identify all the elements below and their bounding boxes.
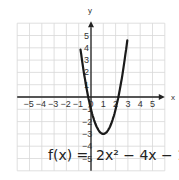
svg-text:−3: −3	[82, 129, 92, 139]
svg-text:4: 4	[84, 43, 89, 53]
svg-text:3: 3	[125, 99, 130, 109]
equation-lhs: f(x) =	[48, 147, 88, 163]
y-axis-label: y	[88, 6, 92, 15]
x-axis-label: x	[171, 93, 175, 102]
svg-text:3: 3	[84, 55, 89, 65]
svg-text:−5: −5	[24, 99, 34, 109]
svg-text:4: 4	[138, 99, 143, 109]
svg-text:5: 5	[84, 31, 89, 41]
parabola-graph: −5−4−3−2−101234554321−1−2−3−4−5 x y f(x)…	[0, 0, 179, 180]
svg-text:−3: −3	[48, 99, 58, 109]
svg-text:−2: −2	[82, 117, 92, 127]
equation-rhs: 2x² − 4x − 1	[96, 147, 179, 163]
svg-text:5: 5	[150, 99, 155, 109]
svg-text:−2: −2	[60, 99, 70, 109]
svg-text:−4: −4	[36, 99, 46, 109]
svg-text:1: 1	[101, 99, 106, 109]
